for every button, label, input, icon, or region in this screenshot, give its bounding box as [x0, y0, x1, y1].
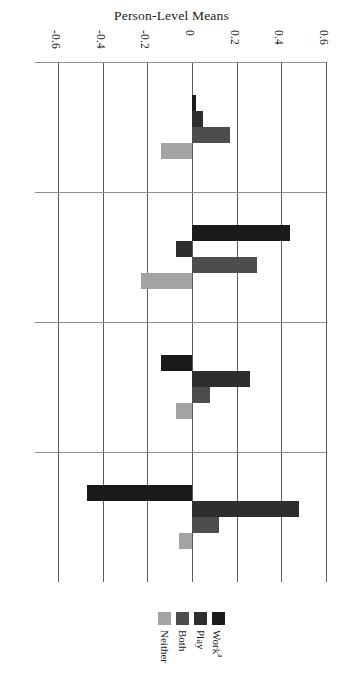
chart-legend: NeitherBothPlayWorka [0, 606, 343, 681]
gridline [326, 62, 327, 582]
chart-title: Person-Level Means [0, 8, 343, 24]
x-tick-label-text: 0.6 [318, 30, 330, 45]
legend-swatch [158, 612, 171, 625]
legend-swatch [194, 612, 207, 625]
x-tick-label-text: -0.4 [95, 30, 107, 49]
bar [192, 501, 299, 517]
bar [192, 225, 290, 241]
bar [192, 257, 257, 273]
group-separator [35, 322, 326, 323]
bar [87, 485, 192, 501]
group-separator [35, 192, 326, 193]
bar [179, 533, 192, 549]
legend-label-text: Neither [159, 630, 171, 663]
x-tick-label-text: -0.6 [50, 30, 62, 49]
bar [161, 143, 192, 159]
x-tick-label-text: 0.2 [229, 30, 241, 45]
legend-label-text: Worka [211, 630, 225, 658]
bar [192, 111, 203, 127]
legend-swatch [176, 612, 189, 625]
bar [192, 127, 230, 143]
bar [192, 387, 210, 403]
bar [176, 241, 192, 257]
bar [161, 355, 192, 371]
legend-label-text: Both [177, 630, 189, 651]
plot-area [58, 62, 326, 582]
legend-label-superscript: a [216, 654, 225, 657]
x-tick-label-text: -0.2 [139, 30, 151, 49]
bar [192, 371, 250, 387]
bar [192, 517, 219, 533]
group-separator [35, 62, 326, 63]
legend-label-text: Play [195, 630, 207, 650]
group-separator [35, 452, 326, 453]
legend-swatch [212, 612, 225, 625]
bar [192, 95, 196, 111]
chart-container: Person-Level Means -0.6-0.4-0.200.20.40.… [0, 0, 343, 681]
x-tick-label-text: 0.4 [273, 30, 285, 45]
bar [141, 273, 192, 289]
x-tick-label-text: 0 [184, 30, 196, 36]
bar [176, 403, 192, 419]
